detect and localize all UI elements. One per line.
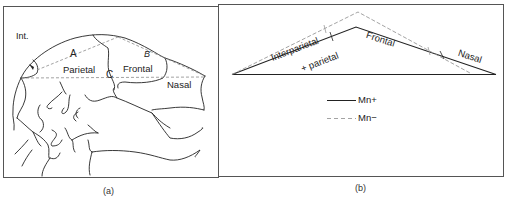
label-int: Int.: [16, 32, 29, 41]
panel-a-frame: [4, 7, 219, 178]
mn-minus-profile: [232, 12, 470, 75]
label-b: B: [144, 50, 150, 59]
legend-mn-minus: Mn−: [358, 113, 377, 123]
skull-drawing: [13, 35, 205, 176]
label-c: C: [106, 70, 113, 80]
label-a: A: [70, 49, 77, 59]
panel-b-frame: [219, 5, 504, 177]
int-arrow-icon: [29, 64, 34, 70]
figure-canvas: [0, 0, 505, 199]
caption-a: (a): [103, 186, 114, 196]
caption-b: (b): [355, 183, 366, 193]
legend-mn-plus: Mn+: [358, 95, 377, 105]
label-parietal: Parietal: [63, 65, 95, 75]
label-frontal: Frontal: [123, 64, 153, 74]
label-nasal: Nasal: [167, 80, 191, 90]
